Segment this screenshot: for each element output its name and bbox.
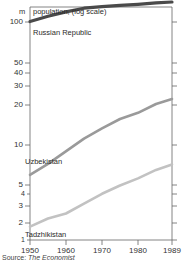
population-log-scale-chart: m population, (log scale) 100 50 40 30 2… [0, 0, 187, 263]
source-prefix: Source: [2, 254, 26, 261]
y-tick-label-50: 50 [2, 59, 23, 67]
y-tick-label-1: 1 [2, 236, 25, 243]
series-label-uzbekistan: Uzbekistan [25, 158, 62, 166]
y-axis-ticks-right [172, 22, 177, 240]
source-note: Source: The Economist [2, 254, 75, 261]
y-tick-label-20: 20 [2, 101, 23, 109]
series-label-russian-republic: Russian Republic [33, 29, 91, 37]
y-tick-label-3: 3 [2, 202, 23, 210]
y-tick-label-100: 100 [2, 18, 23, 26]
y-tick-label-40: 40 [2, 69, 23, 77]
y-tick-label-2: 2 [2, 219, 23, 227]
y-tick-label-4: 4 [2, 190, 25, 197]
x-axis-ticks [30, 240, 172, 245]
x-tick-label-1970: 1970 [88, 247, 116, 255]
y-axis-ticks-left [25, 22, 30, 240]
chart-title: population, (log scale) [33, 8, 106, 16]
chart-plot-area [0, 0, 187, 263]
y-axis-unit-label: m [19, 8, 25, 16]
series-label-tadzhikistan: Tadzhikistan [25, 231, 66, 239]
y-tick-label-30: 30 [2, 82, 23, 90]
y-tick-label-5: 5 [2, 181, 23, 189]
series-line-tadzhikistan [30, 164, 172, 226]
y-tick-label-10: 10 [2, 141, 23, 149]
x-tick-label-1989: 1989 [158, 247, 186, 255]
x-tick-label-1980: 1980 [124, 247, 152, 255]
axis-frame [30, 7, 172, 240]
source-name: The Economist [28, 254, 75, 261]
